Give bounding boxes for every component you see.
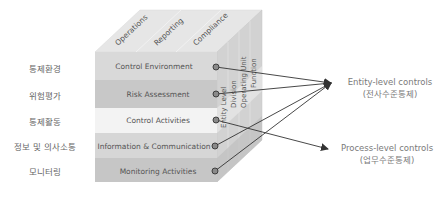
coso-cube-diagram: Operations Reporting Compliance Entity L… (0, 0, 448, 198)
process-level-controls-label: Process-level controls (업무수준통제) (328, 142, 446, 166)
kr-label-information-communication: 정보 및 의사소통 (0, 140, 90, 152)
dot-icon (213, 64, 219, 70)
row-label-risk-assessment: Risk Assessment (127, 90, 190, 99)
dot-icon (213, 91, 219, 97)
side-label-division: Division (230, 80, 238, 108)
row-label-control-activities: Control Activities (126, 116, 190, 125)
entity-level-controls-ko: (전사수준통제) (334, 88, 446, 100)
row-label-monitoring-activities: Monitoring Activities (120, 167, 197, 176)
kr-label-risk-assessment: 위험평가 (0, 89, 90, 101)
kr-label-control-environment: 통제환경 (0, 62, 90, 74)
row-label-information-communication: Information & Communication (97, 142, 210, 151)
entity-level-controls-en: Entity-level controls (334, 76, 446, 88)
dot-icon (213, 117, 219, 123)
dot-icon (212, 143, 218, 149)
process-level-controls-ko: (업무수준통제) (328, 154, 446, 166)
process-level-controls-en: Process-level controls (328, 142, 446, 154)
side-label-operating-unit: Operating Unit (240, 56, 248, 108)
kr-label-monitoring-activities: 모니터링 (0, 165, 90, 177)
kr-label-control-activities: 통제활동 (0, 115, 90, 127)
entity-level-controls-label: Entity-level controls (전사수준통제) (334, 76, 446, 100)
row-label-control-environment: Control Environment (115, 62, 192, 71)
dot-icon (212, 168, 218, 174)
